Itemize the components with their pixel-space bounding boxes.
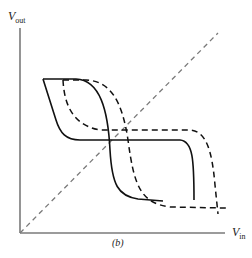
transfer-characteristic-diagram: Vout Vin (b): [0, 0, 252, 258]
reference-diagonal: [20, 33, 218, 233]
y-axis-label: Vout: [8, 9, 26, 25]
x-axis-label: Vin: [232, 225, 246, 241]
solid-transfer-curve-reverse: [43, 79, 194, 200]
dashed-transfer-curve-forward: [63, 80, 226, 208]
figure-caption: (b): [112, 237, 124, 249]
